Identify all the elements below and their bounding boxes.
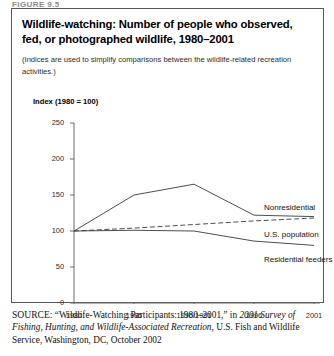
figure-number-label: FIGURE 9.5 (12, 0, 60, 7)
y-axis-tick-label: 0 (38, 298, 64, 307)
plot-area: 250200150100500198019851990/199119962001… (12, 9, 325, 304)
y-axis-tick-label: 200 (38, 154, 64, 163)
source-note: SOURCE: “Wildlife-Watching Participants:… (12, 309, 324, 346)
source-kicker: SOURCE: (12, 309, 53, 320)
y-axis-tick-label: 100 (38, 226, 64, 235)
series-label-u-s-population: U.S. population (264, 230, 319, 239)
source-in-word: in (230, 310, 237, 320)
series-label-residential-feeders: Residential feeders (264, 255, 332, 264)
figure-container: Wildlife-watching: Number of people who … (11, 8, 324, 303)
y-axis-tick-label: 150 (38, 190, 64, 199)
source-quoted-title: “Wildlife-Watching Participants: 1980–20… (55, 310, 228, 320)
y-axis-tick-label: 50 (38, 262, 64, 271)
y-axis-tick-label: 250 (38, 118, 64, 127)
series-label-nonresidential: Nonresidential (264, 203, 315, 212)
